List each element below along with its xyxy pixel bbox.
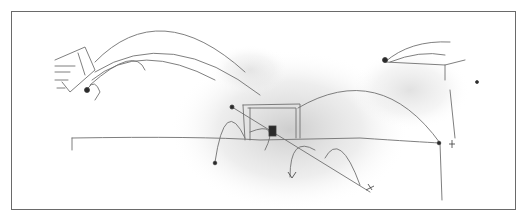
figure-dot (383, 58, 388, 63)
figure-dot (85, 88, 90, 93)
figure-dot (437, 141, 441, 145)
sketch-drawing (0, 0, 530, 221)
house-sketch (55, 47, 95, 92)
figure-dot (230, 105, 234, 109)
figure-dot (213, 161, 217, 165)
trajectory-arc-4 (90, 60, 145, 85)
trajectory-arc-5 (88, 84, 100, 100)
graphite-smudge-right (350, 50, 470, 130)
trajectory-arc-3 (92, 60, 215, 80)
goalkeeper-figure (269, 126, 276, 136)
figure-dot (476, 81, 479, 84)
